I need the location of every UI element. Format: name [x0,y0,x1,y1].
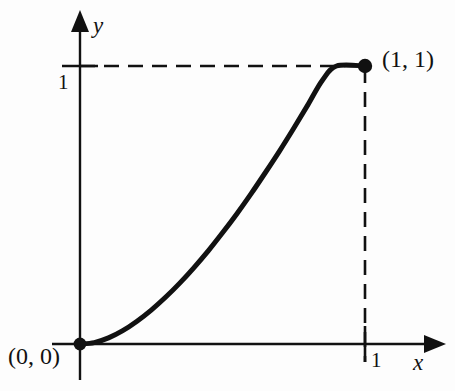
y-axis-tick-label-1: 1 [58,72,69,93]
y-axis-label: y [93,14,103,37]
origin-point-marker [74,338,87,351]
unit-point-label: (1, 1) [382,47,434,71]
unit-point-marker [358,59,372,73]
curve-figure: y x 1 1 (0, 0) (1, 1) [0,0,455,391]
x-axis-label: x [413,351,423,374]
origin-point-label: (0, 0) [8,344,60,368]
curve-line [80,65,365,344]
y-axis-arrowhead [71,10,89,32]
x-axis-tick-label-1: 1 [371,350,382,371]
x-axis-arrowhead [424,335,446,353]
